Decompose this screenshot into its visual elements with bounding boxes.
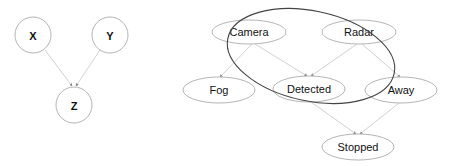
- node-detected-label: Detected: [287, 83, 331, 95]
- node-detected: Detected: [273, 76, 345, 102]
- node-radar: Radar: [322, 20, 396, 44]
- node-z-label: Z: [71, 100, 78, 112]
- node-x-label: X: [29, 30, 37, 42]
- edge-detected-stopped: [311, 102, 356, 134]
- node-fog: Fog: [183, 77, 255, 103]
- edge-radar-detected: [311, 44, 357, 76]
- node-y: Y: [92, 17, 128, 53]
- node-stopped-label: Stopped: [338, 141, 379, 153]
- edge-away-stopped: [360, 103, 399, 134]
- node-camera-label: Camera: [229, 26, 269, 38]
- node-camera: Camera: [212, 20, 286, 44]
- node-z: Z: [56, 87, 92, 123]
- edge-y-z: [76, 50, 100, 86]
- node-fog-label: Fog: [210, 84, 229, 96]
- edge-camera-detected: [255, 44, 307, 76]
- node-away: Away: [365, 77, 437, 103]
- edge-camera-fog: [220, 44, 252, 77]
- diagram-canvas: X Y Z Camera Radar Fog Detected Away: [0, 0, 449, 166]
- node-stopped: Stopped: [322, 134, 394, 160]
- left-graph-edges: [45, 50, 100, 86]
- edge-x-z: [45, 50, 72, 86]
- node-away-label: Away: [388, 84, 415, 96]
- node-y-label: Y: [106, 30, 114, 42]
- node-x: X: [15, 17, 51, 53]
